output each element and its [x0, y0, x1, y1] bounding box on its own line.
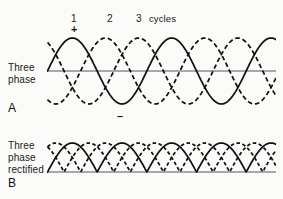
panel-b-traces [48, 143, 277, 172]
waveform-canvas [0, 0, 283, 199]
three-phase-rectification-figure: 1 2 3 cycles + – Three phase A Three pha… [0, 0, 283, 199]
